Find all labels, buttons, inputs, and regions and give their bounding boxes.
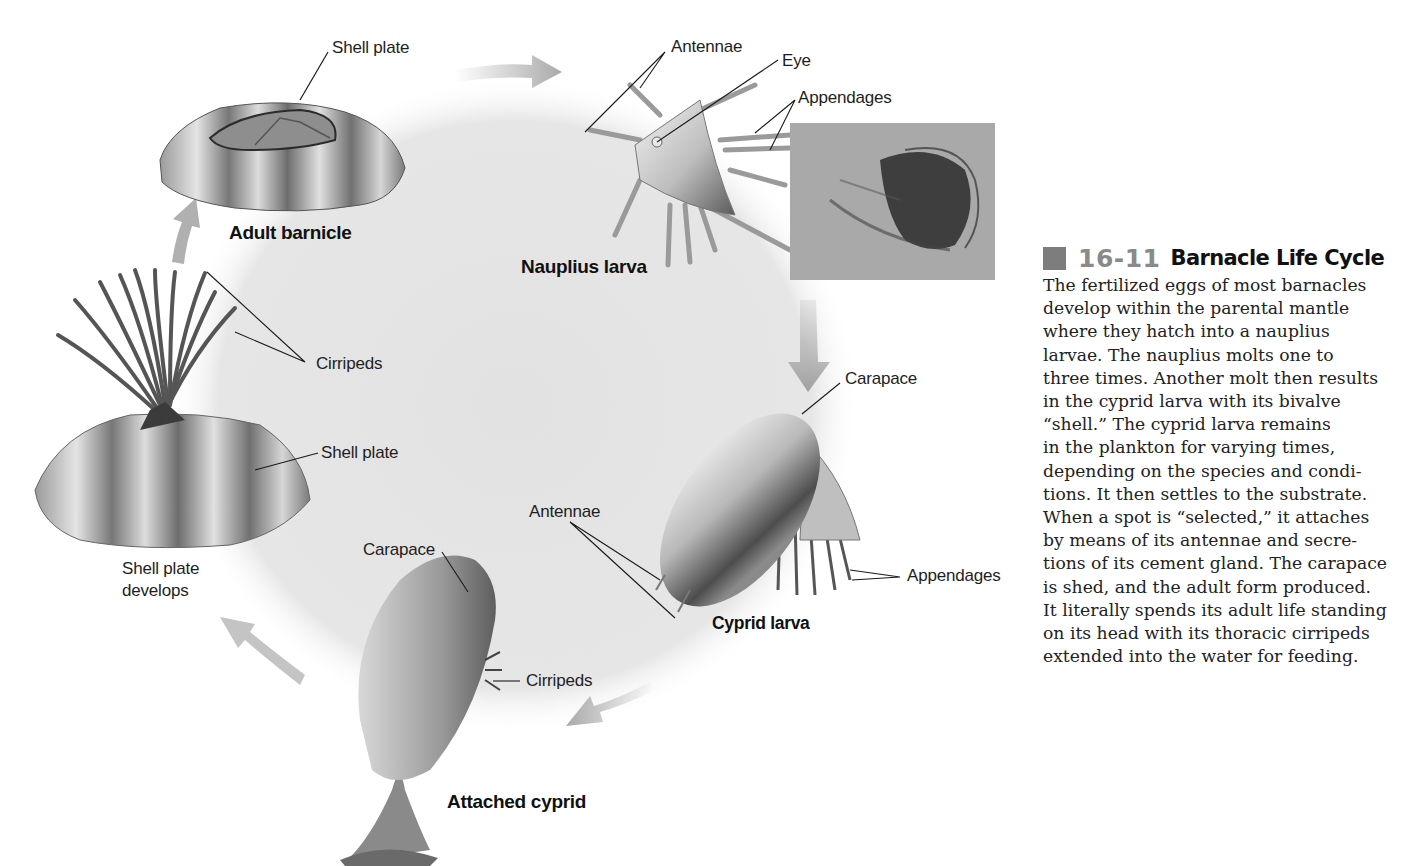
- cycle-arrow-up: [172, 198, 200, 264]
- stage-title-shell-plate-develops: Shell plate develops: [122, 558, 199, 602]
- caption-line: “shell.” The cyprid larva remains: [1043, 413, 1404, 436]
- label-attached-cirripeds: Cirripeds: [526, 671, 592, 691]
- caption-line: by means of its antennae and secre-: [1043, 529, 1404, 552]
- label-nauplius-appendages: Appendages: [798, 88, 891, 108]
- stage-title-nauplius-larva: Nauplius larva: [521, 256, 647, 278]
- stage-title-attached-cyprid: Attached cyprid: [447, 791, 586, 813]
- label-cyprid-carapace: Carapace: [845, 369, 917, 389]
- caption-body: The fertilized eggs of most barnacles de…: [1043, 274, 1404, 668]
- label-cyprid-appendages: Appendages: [907, 566, 1000, 586]
- caption-line: tions of its cement gland. The carapace: [1043, 552, 1404, 575]
- leader-line: [300, 52, 328, 100]
- caption-line: When a spot is “selected,” it attaches: [1043, 506, 1404, 529]
- stage-title-adult-barnacle: Adult barnicle: [229, 222, 351, 244]
- caption-line: The fertilized eggs of most barnacles: [1043, 274, 1404, 297]
- label-cyprid-antennae: Antennae: [529, 502, 600, 522]
- label-adult-shell-plate: Shell plate: [332, 38, 409, 58]
- caption-heading: 16-11 Barnacle Life Cycle: [1043, 242, 1404, 274]
- caption-line: tions. It then settles to the substrate.: [1043, 483, 1404, 506]
- caption-line: in the cyprid larva with its bivalve: [1043, 390, 1404, 413]
- label-developing-cirripeds: Cirripeds: [316, 354, 382, 374]
- caption-line: larvae. The nauplius molts one to: [1043, 344, 1404, 367]
- caption-line: where they hatch into a nauplius: [1043, 320, 1404, 343]
- caption-line: on its head with its thoracic cirripeds: [1043, 622, 1404, 645]
- caption-line: three times. Another molt then results: [1043, 367, 1404, 390]
- caption-line: extended into the water for feeding.: [1043, 645, 1404, 668]
- figure-title: Barnacle Life Cycle: [1170, 246, 1384, 270]
- caption-line: in the plankton for varying times,: [1043, 436, 1404, 459]
- stage-title-cyprid-larva: Cyprid larva: [712, 613, 810, 634]
- label-nauplius-eye: Eye: [782, 51, 811, 71]
- caption-line: depending on the species and condi-: [1043, 460, 1404, 483]
- caption-line: is shed, and the adult form produced.: [1043, 576, 1404, 599]
- barnacle-life-cycle-diagram: Adult barnicle Nauplius larva Cyprid lar…: [0, 0, 1404, 866]
- figure-number: 16-11: [1078, 244, 1160, 273]
- figure-caption: 16-11 Barnacle Life Cycle The fertilized…: [1043, 242, 1404, 668]
- label-developing-shell-plate: Shell plate: [321, 443, 398, 463]
- label-attached-carapace: Carapace: [363, 540, 435, 560]
- caption-line: develop within the parental mantle: [1043, 297, 1404, 320]
- nauplius-photo: [790, 123, 995, 280]
- label-nauplius-antennae: Antennae: [671, 37, 742, 57]
- caption-line: It literally spends its adult life stand…: [1043, 599, 1404, 622]
- caption-square-icon: [1043, 247, 1066, 270]
